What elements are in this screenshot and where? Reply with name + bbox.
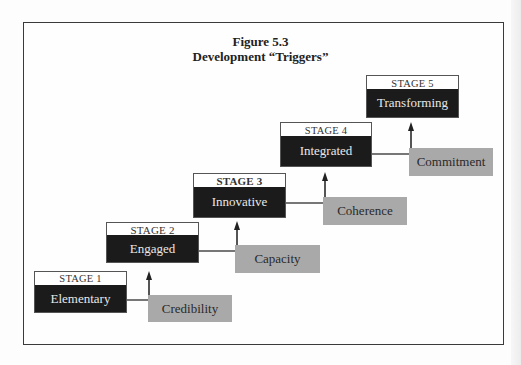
figure-title: Development “Triggers” [0,49,521,64]
stage-1-name: Elementary [35,285,126,312]
connector-line-1 [127,299,149,301]
stage-3-box: STAGE 3 Innovative [193,173,286,218]
arrow-up-icon [234,221,240,230]
stage-2-box: STAGE 2 Engaged [106,222,199,263]
stage-5-name: Transforming [367,89,458,117]
trigger-coherence: Coherence [323,197,407,225]
arrow-shaft-1 [148,279,150,296]
arrow-shaft-3 [324,180,326,198]
stage-1-label: STAGE 1 [35,272,126,286]
stage-4-name: Integrated [281,136,371,166]
arrow-shaft-2 [236,229,238,246]
arrow-up-icon [322,172,328,181]
stage-2-name: Engaged [107,235,198,262]
trigger-commitment: Commitment [409,148,493,176]
arrow-up-icon [408,122,414,131]
connector-line-4 [372,153,411,155]
trigger-capacity: Capacity [235,245,320,273]
arrow-shaft-4 [410,130,412,149]
connector-line-3 [286,202,325,204]
stage-4-box: STAGE 4 Integrated [280,122,372,167]
connector-line-2 [199,250,237,252]
trigger-credibility: Credibility [148,295,232,322]
arrow-up-icon [146,271,152,280]
figure-number: Figure 5.3 [0,34,521,49]
stage-1-box: STAGE 1 Elementary [34,271,127,313]
stage-3-name: Innovative [194,187,285,217]
stage-5-box: STAGE 5 Transforming [366,75,459,118]
